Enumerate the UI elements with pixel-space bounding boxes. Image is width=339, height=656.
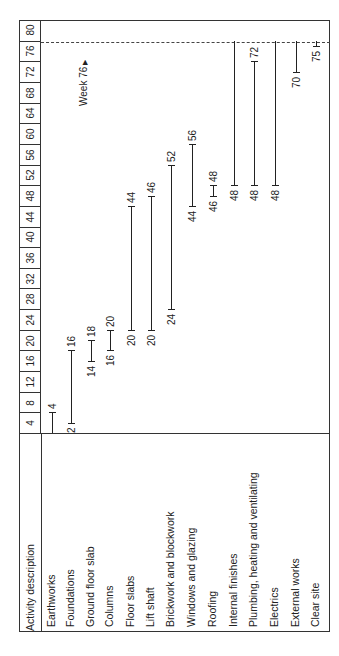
week-tick-4: 4 bbox=[19, 412, 40, 433]
activity-description: Earthworks bbox=[45, 574, 57, 627]
description-divider bbox=[41, 433, 42, 632]
week-tick-32: 32 bbox=[19, 268, 40, 289]
bar-end-cap bbox=[168, 165, 175, 166]
week-tick-48: 48 bbox=[19, 185, 40, 206]
week-tick-80: 80 bbox=[19, 20, 40, 41]
gantt-bar bbox=[91, 340, 92, 361]
gantt-bar bbox=[254, 61, 255, 185]
week-tick-label: 20 bbox=[24, 335, 35, 346]
bar-start-cap bbox=[148, 330, 155, 331]
week-tick-label: 32 bbox=[24, 273, 35, 284]
bar-end-cap bbox=[128, 206, 135, 207]
week-tick-40: 40 bbox=[19, 227, 40, 248]
activity-description: Windows and glazing bbox=[185, 528, 197, 627]
week-tick-label: 44 bbox=[24, 211, 35, 222]
week-tick-24: 24 bbox=[19, 309, 40, 330]
week-tick-label: 40 bbox=[24, 232, 35, 243]
week-tick-8: 8 bbox=[19, 392, 40, 413]
week-tick-label: 4 bbox=[24, 420, 35, 426]
gantt-bar bbox=[171, 165, 172, 310]
end-week-label: 18 bbox=[86, 326, 97, 337]
activity-description: Electrics bbox=[268, 587, 280, 627]
start-week-label: 44 bbox=[187, 211, 198, 222]
week-tick-56: 56 bbox=[19, 144, 40, 165]
end-week-label: 72 bbox=[249, 47, 260, 58]
start-week-label: 16 bbox=[105, 355, 116, 366]
gantt-bar bbox=[151, 196, 152, 330]
bar-end-cap bbox=[189, 144, 196, 145]
start-week-label: 24 bbox=[166, 314, 177, 325]
bar-start-cap bbox=[272, 185, 279, 186]
end-week-label: 20 bbox=[105, 316, 116, 327]
arrow-right-icon: ▶ bbox=[81, 60, 88, 67]
activity-description: Clear site bbox=[309, 583, 321, 627]
bar-start-cap bbox=[293, 72, 300, 73]
activity-description: Foundations bbox=[64, 569, 76, 627]
activity-description: External works bbox=[289, 558, 301, 627]
start-week-label: 14 bbox=[86, 366, 97, 377]
week-axis: 48121620242832364044485256606468727680 bbox=[19, 20, 41, 434]
bar-start-cap bbox=[168, 309, 175, 310]
activity-description: Lift shaft bbox=[144, 587, 156, 627]
week-tick-44: 44 bbox=[19, 206, 40, 227]
week-tick-label: 52 bbox=[24, 170, 35, 181]
gantt-bar bbox=[131, 206, 132, 330]
end-week-label: 46 bbox=[146, 181, 157, 192]
bar-start-cap bbox=[68, 423, 75, 424]
gantt-bar bbox=[52, 412, 53, 433]
end-week-label: 44 bbox=[126, 192, 137, 203]
axis-divider bbox=[19, 433, 330, 434]
week-tick-label: 68 bbox=[24, 87, 35, 98]
start-week-label: 20 bbox=[126, 335, 137, 346]
gantt-bar bbox=[275, 41, 276, 186]
gantt-bar bbox=[234, 41, 235, 186]
start-week-label: 48 bbox=[229, 190, 240, 201]
activity-description: Plumbing, heating and ventilating bbox=[247, 472, 259, 627]
end-week-label: 16 bbox=[66, 336, 77, 347]
start-week-label: 70 bbox=[291, 77, 302, 88]
end-week-label: 56 bbox=[187, 130, 198, 141]
bar-end-cap bbox=[49, 412, 56, 413]
start-week-label: 46 bbox=[208, 200, 219, 211]
week-tick-36: 36 bbox=[19, 247, 40, 268]
end-week-label: 52 bbox=[166, 150, 177, 161]
gantt-bar bbox=[71, 350, 72, 422]
gantt-bar bbox=[213, 185, 214, 195]
activity-description: Internal finishes bbox=[227, 553, 239, 627]
week-tick-64: 64 bbox=[19, 103, 40, 124]
week-tick-label: 64 bbox=[24, 108, 35, 119]
start-week-label: 48 bbox=[249, 190, 260, 201]
activity-description: Floor slabs bbox=[124, 576, 136, 627]
week-tick-label: 56 bbox=[24, 149, 35, 160]
week-76-dashed-line bbox=[41, 42, 330, 43]
week-tick-label: 48 bbox=[24, 190, 35, 201]
activity-description: Brickwork and blockwork bbox=[164, 511, 176, 627]
week-tick-16: 16 bbox=[19, 350, 40, 371]
start-week-label: 2 bbox=[66, 427, 77, 433]
week-tick-label: 16 bbox=[24, 356, 35, 367]
week-tick-72: 72 bbox=[19, 61, 40, 82]
activity-description: Ground floor slab bbox=[84, 546, 96, 627]
activity-description: Columns bbox=[103, 586, 115, 627]
week-tick-label: 80 bbox=[24, 25, 35, 36]
bar-start-cap bbox=[88, 361, 95, 362]
week-76-marker: Week 76 ▶ bbox=[78, 60, 89, 106]
week-tick-label: 60 bbox=[24, 129, 35, 140]
bar-start-cap bbox=[313, 46, 320, 47]
bar-start-cap bbox=[251, 185, 258, 186]
week-tick-28: 28 bbox=[19, 288, 40, 309]
start-week-label: 48 bbox=[270, 190, 281, 201]
bar-end-cap bbox=[88, 340, 95, 341]
gantt-bar bbox=[296, 41, 297, 72]
start-week-label: 75 bbox=[311, 51, 322, 62]
week-tick-label: 76 bbox=[24, 46, 35, 57]
bar-end-cap bbox=[68, 350, 75, 351]
week-tick-label: 8 bbox=[24, 400, 35, 406]
week-tick-52: 52 bbox=[19, 165, 40, 186]
bar-start-cap bbox=[231, 185, 238, 186]
gantt-bar bbox=[192, 144, 193, 206]
bar-end-cap bbox=[148, 196, 155, 197]
start-week-label: 20 bbox=[146, 335, 157, 346]
gantt-bar bbox=[110, 330, 111, 351]
week-tick-label: 12 bbox=[24, 376, 35, 387]
